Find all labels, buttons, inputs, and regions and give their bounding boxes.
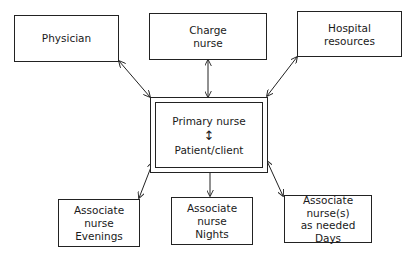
arrow-hospital-center	[267, 57, 297, 96]
node-primary-nurse-patient: Primary nurse ↕ Patient/client	[150, 97, 268, 173]
node-charge-nurse: Charge nurse	[149, 13, 267, 60]
node-hospital-resources: Hospital resources	[297, 11, 402, 57]
physician-label: Physician	[42, 32, 91, 45]
assoc-days-line3: Days	[315, 232, 341, 245]
assoc-days-line1: Associate nurse(s)	[285, 194, 371, 219]
arrow-physician-center	[119, 61, 150, 97]
node-associate-evenings: Associate nurse Evenings	[58, 199, 140, 247]
assoc-evenings-line1: Associate nurse	[59, 204, 139, 230]
center-inner-box: Primary nurse ↕ Patient/client	[155, 102, 263, 168]
node-associate-nights: Associate nurse Nights	[171, 197, 253, 245]
arrow-center-days	[267, 161, 283, 196]
charge-nurse-line1: Charge	[189, 24, 227, 37]
assoc-days-line2: as needed	[301, 219, 356, 232]
assoc-nights-line1: Associate nurse	[172, 202, 252, 228]
patient-client-label: Patient/client	[175, 143, 244, 157]
charge-nurse-line2: nurse	[193, 37, 223, 50]
node-physician: Physician	[14, 15, 119, 62]
assoc-nights-line2: Nights	[195, 228, 229, 241]
primary-nurse-label: Primary nurse	[172, 114, 245, 128]
hospital-resources-line2: resources	[324, 35, 375, 48]
node-associate-days: Associate nurse(s) as needed Days	[284, 195, 372, 243]
hospital-resources-line1: Hospital	[328, 22, 371, 35]
bidirectional-arrow-icon: ↕	[204, 128, 215, 143]
assoc-evenings-line2: Evenings	[75, 230, 123, 243]
